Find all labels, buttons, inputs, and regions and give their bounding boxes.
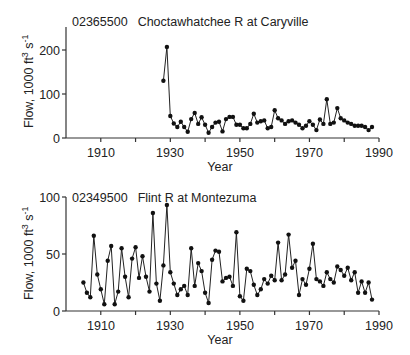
data-point [304, 124, 308, 128]
data-point [293, 259, 297, 263]
data-point [279, 118, 283, 122]
data-point [102, 302, 106, 306]
data-point [161, 79, 165, 83]
data-point [227, 275, 231, 279]
data-point [269, 125, 273, 129]
data-point [203, 123, 207, 127]
y-axis-title-bottom: Flow, 1000 ft3 s-1 [20, 206, 36, 300]
data-point [248, 122, 252, 126]
data-point [231, 284, 235, 288]
data-point [106, 259, 110, 263]
data-point [363, 125, 367, 129]
y-axis-top: 0 100 200 Flow, 1000 ft3 s-1 [20, 27, 66, 146]
data-point [335, 106, 339, 110]
x-tick-label: 1990 [365, 319, 393, 333]
data-point [186, 130, 190, 134]
data-point [119, 246, 123, 250]
data-point [196, 122, 200, 126]
data-point [346, 266, 350, 270]
data-point [252, 283, 256, 287]
choctawhatchee-flow-chart: 02365500Choctawhatchee R at Caryville 0 … [20, 15, 393, 174]
data-series-top [161, 45, 374, 135]
data-point [262, 118, 266, 122]
data-point [238, 294, 242, 298]
data-point [370, 125, 374, 129]
data-point [328, 277, 332, 281]
data-point [342, 274, 346, 278]
x-tick-label: 1910 [87, 319, 115, 333]
data-point [370, 297, 374, 301]
data-point [300, 277, 304, 281]
x-axis-top: 1910 1930 1950 1970 1990 Year [66, 138, 393, 174]
station-name: Flint R at Montezuma [138, 191, 257, 205]
data-point [356, 291, 360, 295]
x-tick-label: 1990 [365, 146, 393, 160]
data-point [210, 258, 214, 262]
chart-title-bottom: 02349500Flint R at Montezuma [72, 191, 256, 205]
data-point [140, 254, 144, 258]
data-point [283, 122, 287, 126]
x-axis-title-top: Year [207, 160, 232, 174]
data-point [297, 123, 301, 127]
data-point [255, 293, 259, 297]
y-tick-label: 200 [39, 44, 60, 58]
data-point [259, 287, 263, 291]
x-tick-label: 1910 [87, 146, 115, 160]
data-point [273, 278, 277, 282]
data-point [311, 242, 315, 246]
data-point [165, 45, 169, 49]
data-point [220, 279, 224, 283]
data-point [269, 274, 273, 278]
y-axis-title-top: Flow, 1000 ft3 s-1 [20, 34, 36, 128]
data-point [85, 291, 89, 295]
x-tick-label: 1970 [295, 146, 323, 160]
data-point [182, 284, 186, 288]
data-point [109, 244, 113, 248]
data-point [283, 272, 287, 276]
data-point [189, 117, 193, 121]
data-point [359, 279, 363, 283]
data-point [99, 287, 103, 291]
station-name: Choctawhatchee R at Caryville [138, 15, 309, 29]
data-point [179, 287, 183, 291]
y-axis-bottom: 0 50 100 Flow, 1000 ft3 s-1 [20, 191, 66, 319]
data-point [353, 270, 357, 274]
data-point [168, 270, 172, 274]
data-point [339, 268, 343, 272]
data-point [199, 269, 203, 273]
data-point [300, 126, 304, 130]
data-point [175, 293, 179, 297]
data-point [189, 246, 193, 250]
data-point [206, 301, 210, 305]
data-point [172, 281, 176, 285]
data-point [231, 115, 235, 119]
data-point [182, 125, 186, 129]
data-point [116, 289, 120, 293]
station-id: 02349500 [72, 191, 128, 205]
data-point [234, 230, 238, 234]
y-tick-label: 100 [39, 88, 60, 102]
data-point [276, 240, 280, 244]
data-point [88, 295, 92, 299]
data-point [196, 261, 200, 265]
data-point [366, 280, 370, 284]
data-point [95, 272, 99, 276]
x-axis-bottom: 1910 1930 1950 1970 1990 Year [66, 311, 393, 347]
data-point [314, 128, 318, 132]
data-point [220, 129, 224, 133]
data-point [172, 121, 176, 125]
data-point [179, 120, 183, 124]
data-point [325, 270, 329, 274]
data-point [165, 203, 169, 207]
y-tick-label: 0 [53, 132, 60, 146]
data-point [321, 284, 325, 288]
data-point [266, 281, 270, 285]
data-point [92, 234, 96, 238]
y-tick-label: 0 [53, 305, 60, 319]
x-axis-title-bottom: Year [207, 333, 232, 347]
data-point [273, 108, 277, 112]
data-point [186, 293, 190, 297]
data-series-bottom [81, 203, 374, 307]
station-id: 02365500 [72, 15, 128, 29]
data-point [199, 115, 203, 119]
